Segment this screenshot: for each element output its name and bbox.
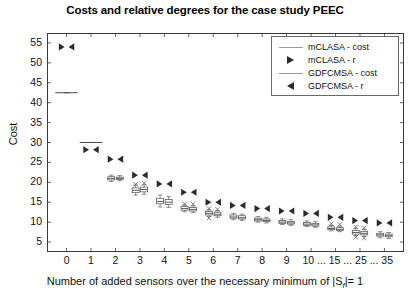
legend-item-mclasa-r: mCLASA - r: [272, 53, 398, 66]
y-tick-label: 25: [14, 155, 42, 167]
y-tick-label: 30: [14, 136, 42, 148]
x-tick-label: 0: [64, 254, 70, 266]
legend-item-mclasa-cost: mCLASA - cost: [272, 40, 398, 53]
x-tick-label: 4: [161, 254, 167, 266]
legend-label: mCLASA - r: [308, 55, 356, 65]
line-icon: [276, 41, 306, 53]
legend-label: mCLASA - cost: [308, 42, 369, 52]
y-tick-label: 15: [14, 195, 42, 207]
x-tick-label: 2: [113, 254, 119, 266]
x-tick-label: 7: [235, 254, 241, 266]
legend-item-gdfcmsa-r: GDFCMSA - r: [272, 79, 398, 92]
x-tick-label: 1: [88, 254, 94, 266]
line-icon: [276, 67, 306, 79]
x-tick-label-compound: 10 ... 15 ... 25 ... 35: [303, 254, 393, 266]
triangle-left-icon: [276, 80, 306, 92]
legend-label: GDFCMSA - r: [308, 81, 364, 91]
chart-legend: mCLASA - cost mCLASA - r GDFCMSA - cost …: [271, 36, 399, 96]
y-tick-label: 45: [14, 76, 42, 88]
x-tick-label: 3: [137, 254, 143, 266]
y-tick-label: 50: [14, 56, 42, 68]
y-tick-label: 10: [14, 215, 42, 227]
x-tick-label: 8: [259, 254, 265, 266]
y-tick-label: 5: [14, 235, 42, 247]
y-tick-label: 35: [14, 116, 42, 128]
x-tick-label: 9: [284, 254, 290, 266]
y-tick-label: 40: [14, 96, 42, 108]
legend-label: GDFCMSA - cost: [308, 68, 377, 78]
triangle-right-icon: [276, 54, 306, 66]
chart-figure: Costs and relative degrees for the case …: [0, 0, 410, 295]
y-tick-label: 55: [14, 36, 42, 48]
y-tick-label: 20: [14, 175, 42, 187]
x-tick-label: 6: [210, 254, 216, 266]
x-tick-label: 5: [186, 254, 192, 266]
legend-item-gdfcmsa-cost: GDFCMSA - cost: [272, 66, 398, 79]
